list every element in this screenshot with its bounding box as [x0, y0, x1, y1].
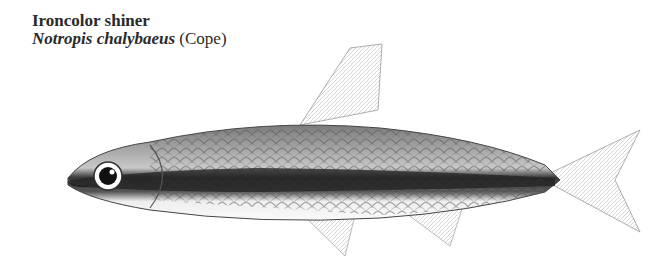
fish-illustration [0, 0, 668, 268]
